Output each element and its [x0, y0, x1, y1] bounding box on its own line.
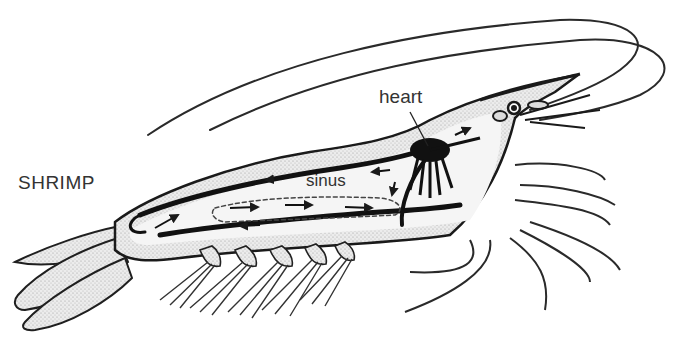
diagram-title: SHRIMP: [18, 173, 95, 192]
shrimp-diagram: SHRIMP heart sinus: [0, 0, 676, 340]
antennae: [148, 20, 664, 135]
sinus-label: sinus: [306, 172, 346, 189]
heart-label: heart: [379, 87, 422, 106]
shrimp-illustration: [0, 0, 676, 340]
